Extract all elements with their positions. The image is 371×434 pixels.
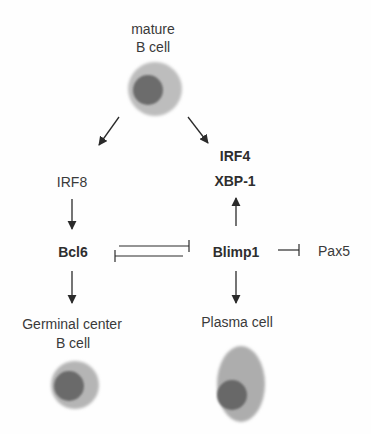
irf4-label: IRF4 [220, 148, 251, 164]
b-cell-differentiation-diagram: mature B cell IRF4 XBP-1 IRF8 Bcl6 Blimp… [0, 0, 371, 434]
plasma-cell-label: Plasma cell [201, 314, 273, 330]
plasma-cell-icon [217, 346, 265, 422]
inhibition-blimp1-to-bcl6 [115, 250, 183, 262]
arrow-mature-to-irf8 [99, 117, 119, 145]
arrow-mature-to-irf4 [188, 117, 208, 143]
irf8-label: IRF8 [57, 174, 88, 190]
mature-b-cell-label-line1: mature [131, 21, 175, 37]
bcl6-label: Bcl6 [58, 244, 88, 260]
germinal-center-label-line2: B cell [56, 335, 90, 351]
mature-b-cell-icon [128, 62, 182, 116]
mature-b-cell-label-line2: B cell [136, 39, 170, 55]
pax5-label: Pax5 [318, 243, 350, 259]
xbp1-label: XBP-1 [214, 173, 255, 189]
inhibition-blimp1-to-pax5 [278, 244, 299, 256]
blimp1-label: Blimp1 [213, 244, 260, 260]
inhibition-bcl6-to-blimp1 [119, 240, 189, 252]
germinal-center-label-line1: Germinal center [22, 316, 122, 332]
germinal-center-b-cell-icon [51, 361, 99, 409]
